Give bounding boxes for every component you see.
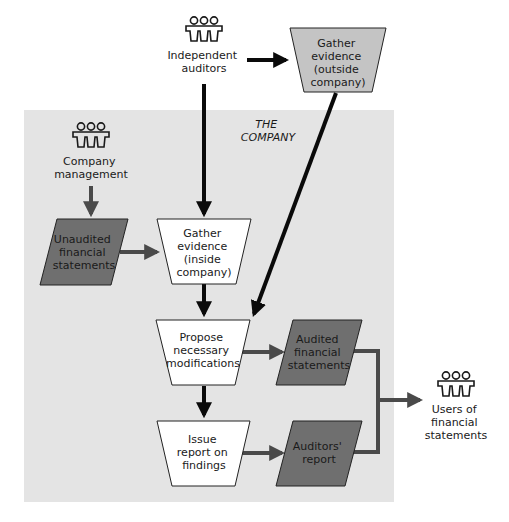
gather-inside-label: Gather evidence (inside company) bbox=[177, 227, 232, 279]
process-propose-modifications[interactable]: Propose necessary modifications bbox=[156, 320, 250, 385]
audit-process-diagram: THE COMPANY Gather evidence (outside com… bbox=[0, 0, 509, 522]
actor-independent-auditors[interactable]: Independent auditors bbox=[167, 17, 240, 75]
people-group-icon bbox=[438, 372, 474, 396]
gather-outside-label: Gather evidence (outside company) bbox=[311, 37, 366, 89]
unaudited-label: Unaudited financial statements bbox=[53, 233, 116, 272]
process-issue-report[interactable]: Issue report on findings bbox=[157, 421, 250, 486]
audited-label: Audited financial statements bbox=[288, 333, 351, 372]
process-gather-evidence-outside[interactable]: Gather evidence (outside company) bbox=[290, 28, 386, 92]
independent-auditors-label: Independent auditors bbox=[167, 49, 240, 75]
actor-users-of-financial-statements[interactable]: Users of financial statements bbox=[425, 372, 488, 442]
people-group-icon bbox=[186, 17, 222, 41]
users-label: Users of financial statements bbox=[425, 403, 488, 442]
company-management-label: Company management bbox=[54, 155, 128, 181]
process-gather-evidence-inside[interactable]: Gather evidence (inside company) bbox=[157, 219, 251, 284]
